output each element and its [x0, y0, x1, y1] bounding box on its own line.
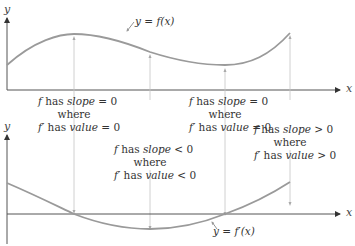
f-curve-label: y = f(x) [135, 15, 174, 27]
bottom-x-axis-label: x [346, 206, 352, 219]
annotation-min: f has slope = 0 where f′ has value = 0 [189, 95, 261, 134]
bottom-y-axis-label: y [4, 120, 10, 133]
f-curve [7, 33, 290, 65]
top-x-axis-label: x [346, 82, 352, 95]
annotation-max: f has slope = 0 where f′ has value = 0 [38, 95, 110, 134]
derivative-diagram: y x y x y = f(x) y = f′(x) f has slope =… [0, 0, 355, 246]
f-prime-curve [7, 182, 290, 229]
f-prime-curve-label: y = f′(x) [213, 225, 255, 237]
annotation-decreasing: f has slope < 0 where f′ has value < 0 [114, 143, 186, 182]
annotation-increasing: f has slope > 0 where f′ has value > 0 [254, 123, 326, 162]
top-y-axis-label: y [4, 3, 10, 16]
